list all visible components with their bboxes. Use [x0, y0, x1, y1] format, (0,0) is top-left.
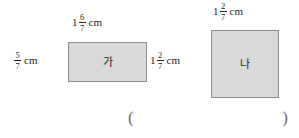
dimension-label-ga-height: 5 7 cm: [13, 51, 37, 71]
dimension-label-na-height: 1 2 7 cm: [150, 51, 180, 71]
mixed-number-ga-height: 5 7: [13, 51, 21, 71]
dimension-label-ga-width: 1 6 7 cm: [72, 13, 102, 33]
fraction: 6 7: [79, 13, 86, 33]
answer-blank[interactable]: ( ): [128, 104, 288, 130]
numerator: 5: [14, 51, 20, 60]
shape-label-na: 나: [240, 59, 250, 70]
denominator: 7: [79, 24, 85, 33]
unit-label: cm: [230, 6, 243, 17]
fraction: 2 7: [157, 51, 164, 71]
open-paren: (: [128, 109, 134, 126]
numerator: 2: [220, 2, 226, 11]
mixed-number-na-height: 1 2 7: [150, 51, 164, 71]
numerator: 2: [157, 51, 163, 60]
fraction: 5 7: [14, 51, 21, 71]
whole-part: 1: [213, 6, 219, 17]
close-paren: ): [282, 109, 288, 126]
dimension-label-na-width: 1 2 7 cm: [213, 2, 243, 22]
rectangle-ga: 가: [68, 42, 147, 82]
shape-label-ga: 가: [103, 57, 113, 68]
rectangle-na: 나: [211, 30, 279, 98]
numerator: 6: [79, 13, 85, 22]
unit-label: cm: [24, 55, 37, 66]
denominator: 7: [157, 62, 163, 71]
mixed-number-na-width: 1 2 7: [213, 2, 227, 22]
denominator: 7: [14, 62, 20, 71]
unit-label: cm: [167, 55, 180, 66]
whole-part: 1: [72, 17, 78, 28]
whole-part: 1: [150, 55, 156, 66]
fraction: 2 7: [220, 2, 227, 22]
denominator: 7: [220, 13, 226, 22]
mixed-number-ga-width: 1 6 7: [72, 13, 86, 33]
figure-canvas: 1 6 7 cm 5 7 cm 가 1 2: [0, 0, 299, 138]
unit-label: cm: [89, 17, 102, 28]
